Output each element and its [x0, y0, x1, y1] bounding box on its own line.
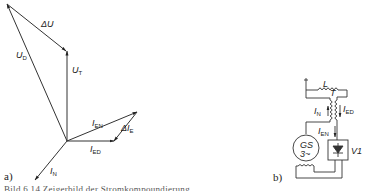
label-I-N-circuit: IN [314, 106, 321, 117]
label-I-N: IN [50, 166, 57, 177]
label-delta-I-E: ΔIE [120, 123, 134, 134]
label-I-ED: IED [90, 144, 102, 155]
label-U-T: UT [72, 65, 83, 76]
figure-canvas: UD ΔU UT IEN ΔIE IED IN a) [0, 0, 368, 191]
transformer-secondary [335, 100, 337, 120]
phasor-labels: UD ΔU UT IEN ΔIE IED IN a) [4, 19, 134, 183]
panel-a-label: a) [4, 170, 13, 183]
excitation-winding [298, 165, 314, 167]
label-delta-U: ΔU [40, 19, 54, 29]
figure-caption: Bild 6.14 Zeigerbild der Stromkompoundie… [4, 184, 190, 191]
label-U-D: UD [16, 50, 28, 61]
phasor-diagram [7, 4, 137, 180]
label-I-ED-circuit: IED [343, 104, 355, 115]
vector-delta-U [7, 4, 66, 51]
label-L: L [323, 79, 328, 89]
circuit-labels: L T IN IED IEN GS 3~ V1 b) [273, 79, 362, 184]
label-T: T [330, 88, 337, 98]
transformer-primary [330, 100, 332, 120]
panel-b-label: b) [273, 171, 283, 184]
label-I-EN-circuit: IEN [318, 126, 329, 137]
label-V1: V1 [351, 146, 362, 156]
vector-U-D [7, 4, 67, 141]
label-3-phase: 3~ [300, 149, 310, 159]
label-I-EN: IEN [92, 118, 103, 129]
